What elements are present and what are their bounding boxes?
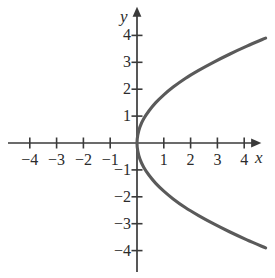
x-tick-label: 3 — [202, 152, 232, 168]
x-tick-label: 1 — [149, 152, 179, 168]
y-tick-label: −2 — [101, 189, 131, 205]
x-tick-label: −3 — [42, 152, 72, 168]
y-tick-label: 4 — [101, 27, 131, 43]
y-tick-label: −3 — [101, 216, 131, 232]
y-tick-label: 1 — [101, 108, 131, 124]
x-tick-label: −4 — [15, 152, 45, 168]
y-axis-label: y — [120, 8, 128, 25]
x-tick-label: 2 — [176, 152, 206, 168]
graph-figure: −4−3−2−112344321−1−2−3−4 x y — [0, 0, 275, 278]
y-tick-label: −1 — [101, 162, 131, 178]
y-tick-label: 3 — [101, 54, 131, 70]
coordinate-plot — [0, 0, 275, 278]
x-axis-label: x — [255, 149, 263, 166]
x-tick-label: −2 — [68, 152, 98, 168]
y-tick-label: −4 — [101, 243, 131, 259]
y-tick-label: 2 — [101, 81, 131, 97]
